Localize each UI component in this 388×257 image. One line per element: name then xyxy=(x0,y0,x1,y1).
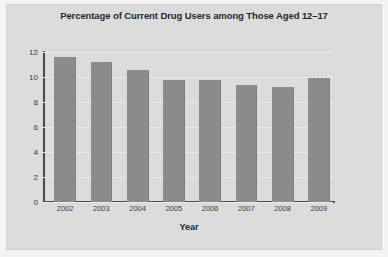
x-axis-tick-label: 2009 xyxy=(311,204,328,213)
x-axis-tick-label: 2005 xyxy=(166,204,183,213)
bar-series xyxy=(43,52,333,202)
x-axis-tick-label: 2004 xyxy=(129,204,146,213)
y-axis-tick-label: 0 xyxy=(34,198,38,207)
bar xyxy=(236,85,258,203)
x-axis-title: Year xyxy=(43,222,335,232)
bar xyxy=(163,80,185,203)
x-axis-tick-label: 2003 xyxy=(93,204,110,213)
chart-figure: Percentage of Current Drug Users among T… xyxy=(0,0,388,257)
gridline xyxy=(43,202,333,203)
bar xyxy=(199,80,221,203)
y-axis-tick-label: 6 xyxy=(34,123,38,132)
bar xyxy=(127,70,149,203)
bar xyxy=(308,78,330,202)
x-axis-tick-label: 2006 xyxy=(202,204,219,213)
plot-area: 024681012 xyxy=(43,52,333,202)
bar xyxy=(272,87,294,202)
x-axis-tick-label: 2002 xyxy=(57,204,74,213)
y-axis-tick-label: 2 xyxy=(34,173,38,182)
y-axis-tick-label: 4 xyxy=(34,148,38,157)
y-axis-tick-label: 12 xyxy=(29,48,38,57)
x-axis-tick-label: 2007 xyxy=(238,204,255,213)
bar xyxy=(91,62,113,202)
bar xyxy=(54,57,76,202)
y-axis-tick-label: 10 xyxy=(29,73,38,82)
chart-title: Percentage of Current Drug Users among T… xyxy=(0,10,388,21)
y-axis-tick-label: 8 xyxy=(34,98,38,107)
x-axis-tick-label: 2008 xyxy=(274,204,291,213)
